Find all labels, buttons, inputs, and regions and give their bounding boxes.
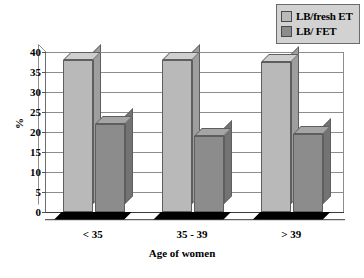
x-axis-tick-label: < 35 [44, 228, 142, 240]
y-axis-tick-mark [42, 92, 46, 93]
y-axis-tick-label: 40 [30, 47, 41, 57]
y-axis-tick-label: 35 [30, 67, 41, 77]
legend-item-lb-fresh-et: LB/fresh ET [281, 9, 355, 23]
bar-lb-fresh-et [63, 60, 93, 212]
floor-wedge [153, 212, 231, 220]
bar-lb-fresh-et [261, 62, 291, 212]
chart-figure: LB/fresh ET LB/ FET % 0510152025303540 <… [0, 0, 364, 278]
bar-front-face [162, 60, 192, 212]
y-axis-tick-label: 25 [30, 107, 41, 117]
x-axis-title: Age of women [0, 247, 364, 259]
bar-front-face [194, 136, 224, 212]
y-axis-title: % [13, 118, 25, 129]
y-axis-tick-mark [42, 52, 46, 53]
bar-lb-fet [194, 136, 224, 212]
y-axis-tick-label: 10 [30, 167, 41, 177]
y-axis-tick-label: 30 [30, 87, 41, 97]
bar-lb-fresh-et [162, 60, 192, 212]
bar-front-face [293, 134, 323, 212]
baseline [45, 219, 345, 220]
legend-swatch-icon [281, 11, 292, 22]
y-axis-tick-label: 0 [36, 207, 42, 217]
y-axis-tick-label: 20 [30, 127, 41, 137]
y-axis-tick-mark [42, 172, 46, 173]
floor-wedge [54, 212, 132, 220]
bar-front-face [261, 62, 291, 212]
x-axis-tick-label: > 39 [242, 228, 340, 240]
y-axis-tick-mark [42, 152, 46, 153]
floor-wedge [252, 212, 330, 220]
bar-lb-fet [95, 124, 125, 212]
y-axis-tick-mark [42, 132, 46, 133]
bar-front-face [63, 60, 93, 212]
chart-floor [45, 212, 351, 221]
x-axis-tick-label: 35 - 39 [143, 228, 241, 240]
plot-area: 0510152025303540 [45, 52, 344, 213]
chart-legend: LB/fresh ET LB/ FET [276, 4, 360, 44]
legend-item-label: LB/fresh ET [296, 11, 353, 22]
legend-item-lb-fet: LB/ FET [281, 24, 355, 38]
y-axis-tick-label: 5 [36, 187, 42, 197]
y-axis-tick-label: 15 [30, 147, 41, 157]
y-axis-tick-mark [42, 72, 46, 73]
y-axis-tick-mark [42, 192, 46, 193]
legend-item-label: LB/ FET [296, 26, 336, 37]
bar-lb-fet [293, 134, 323, 212]
legend-swatch-icon [281, 26, 292, 37]
y-axis-tick-mark [42, 112, 46, 113]
bar-front-face [95, 124, 125, 212]
